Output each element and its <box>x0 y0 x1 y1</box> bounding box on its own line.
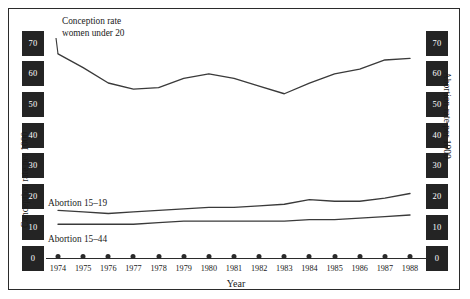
x-axis-tick-dot-1977 <box>131 254 136 259</box>
annotation-abortion-15-19: Abortion 15–19 <box>48 198 107 210</box>
annotation-conception-rate: Conception rate women under 20 <box>62 16 124 39</box>
x-axis-tick-dot-1982 <box>257 254 262 259</box>
annotation-conception-line2: women under 20 <box>62 28 124 40</box>
plot-area: Conception rate women under 20 Abortion … <box>46 12 426 286</box>
x-axis-tick-dot-1983 <box>282 254 287 259</box>
x-axis-tick-dot-1978 <box>156 254 161 259</box>
y-axis-right-tick-10: 10 <box>426 215 448 240</box>
x-axis-tick-dot-1986 <box>357 254 362 259</box>
x-axis-tick-dot-1985 <box>332 254 337 259</box>
y-axis-left-tick-70: 70 <box>22 31 44 56</box>
leader-line-conception <box>56 38 58 54</box>
x-axis-tick-dot-1976 <box>106 254 111 259</box>
y-axis-right-tick-20: 20 <box>426 184 448 209</box>
annotation-conception-line1: Conception rate <box>62 16 124 28</box>
y-axis-left-tick-50: 50 <box>22 92 44 117</box>
chart-figure: 706050403020100 Conception rate per 1000… <box>0 0 470 299</box>
line-abortion-15-19 <box>58 194 410 214</box>
x-axis-tick-dot-1981 <box>232 254 237 259</box>
x-axis-line <box>46 258 426 259</box>
x-axis-label-1988: 1988 <box>393 264 427 273</box>
y-axis-right-title: Abortion rate per 1000 <box>442 72 452 159</box>
x-axis-tick-dot-1988 <box>408 254 413 259</box>
y-axis-left-title: Conception rate per 1000 <box>20 132 30 228</box>
y-axis-left-tick-60: 60 <box>22 61 44 86</box>
x-axis-title: Year <box>46 278 426 289</box>
x-axis-tick-dot-1984 <box>307 254 312 259</box>
x-axis-tick-dot-1974 <box>56 254 61 259</box>
x-axis-tick-dot-1979 <box>181 254 186 259</box>
line-abortion-15-44 <box>58 215 410 224</box>
x-axis-tick-dot-1987 <box>382 254 387 259</box>
x-axis-tick-dot-1975 <box>81 254 86 259</box>
y-axis-right-tick-70: 70 <box>426 31 448 56</box>
line-conception-rate <box>58 54 410 94</box>
annotation-abortion-15-44: Abortion 15–44 <box>48 234 107 246</box>
x-axis-tick-dot-1980 <box>206 254 211 259</box>
y-axis-right-tick-0: 0 <box>426 246 448 271</box>
